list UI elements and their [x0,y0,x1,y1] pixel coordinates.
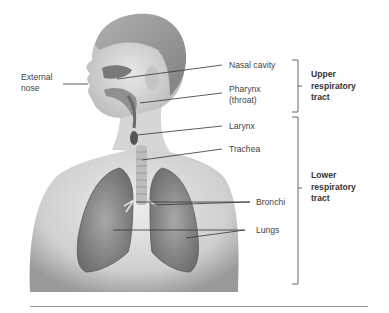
label-trachea: Trachea [229,144,260,155]
label-larynx: Larynx [229,121,255,132]
anatomy-illustration [0,0,389,313]
label-lungs: Lungs [256,225,279,236]
torso [30,100,239,292]
label-nasal-cavity: Nasal cavity [229,60,275,71]
bottom-rule [30,306,368,307]
brackets [292,60,302,284]
label-external-nose: External nose [21,72,53,93]
lower-bracket [292,117,298,284]
head [86,14,186,128]
label-upper-respiratory-tract: Upper respiratory tract [311,69,356,104]
respiratory-diagram: External nose Nasal cavity Pharynx (thro… [0,0,389,313]
label-pharynx: Pharynx (throat) [229,84,261,105]
upper-bracket [292,60,298,112]
label-lower-respiratory-tract: Lower respiratory tract [311,170,356,205]
label-bronchi: Bronchi [256,197,285,208]
